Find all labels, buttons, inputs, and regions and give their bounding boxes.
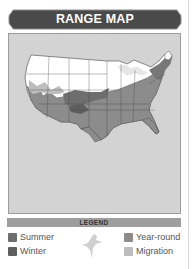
legend-label: Year-round bbox=[136, 232, 180, 242]
legend-label: Winter bbox=[20, 246, 46, 256]
range-map-header: RANGE MAP bbox=[8, 9, 182, 30]
legend-title: LEGEND bbox=[7, 218, 181, 227]
winter-swatch bbox=[8, 247, 17, 256]
legend-item-winter: Winter bbox=[8, 245, 46, 257]
page-edge-rule bbox=[188, 0, 189, 269]
legend-item-year-round: Year-round bbox=[124, 231, 180, 243]
year-round-swatch bbox=[124, 233, 133, 242]
legend-label: Migration bbox=[136, 246, 173, 256]
range-map bbox=[8, 33, 181, 214]
legend-item-migration: Migration bbox=[124, 245, 173, 257]
migration-swatch bbox=[124, 247, 133, 256]
legend-item-summer: Summer bbox=[8, 231, 54, 243]
legend-label: Summer bbox=[20, 232, 54, 242]
bird-silhouette-icon bbox=[80, 232, 104, 260]
us-range-map-icon bbox=[9, 34, 181, 214]
page-title: RANGE MAP bbox=[8, 9, 182, 30]
summer-swatch bbox=[8, 233, 17, 242]
